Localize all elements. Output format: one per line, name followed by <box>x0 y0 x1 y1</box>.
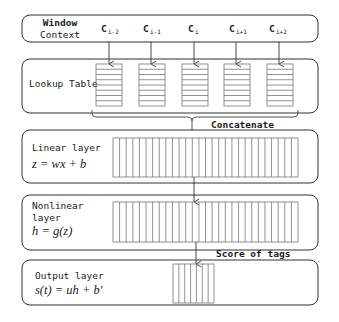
concatenate-label: Concatenate <box>211 119 274 130</box>
token-c-i-minus-2: C i-2 <box>101 23 119 35</box>
svg-text:i: i <box>195 28 199 35</box>
svg-text:C: C <box>229 23 235 34</box>
output-layer-formula: s(t) = uh + b′ <box>35 283 103 297</box>
lookup-table-label: Lookup Table <box>29 78 98 89</box>
nonlinear-layer-label-line1: Nonlinear <box>32 200 84 211</box>
svg-text:i-2: i-2 <box>108 28 119 35</box>
svg-text:C: C <box>101 23 107 34</box>
svg-text:C: C <box>269 23 275 34</box>
lookup-column <box>224 64 250 106</box>
nonlinear-layer-label-line2: layer <box>32 212 61 223</box>
token-to-lookup-arrows <box>109 42 279 64</box>
token-c-i: C i <box>188 23 199 35</box>
window-context-label-line2: Context <box>40 29 80 40</box>
nonlinear-layer-box: Nonlinear layer h = g(z) <box>22 195 318 250</box>
svg-text:i+1: i+1 <box>236 28 247 35</box>
lookup-column <box>267 64 293 106</box>
linear-layer-label: Linear layer <box>32 142 101 153</box>
output-layer-label: Output layer <box>35 270 104 281</box>
svg-text:i-1: i-1 <box>150 28 161 35</box>
lookup-column <box>139 64 165 106</box>
network-diagram: Window Context C i-2 C i-1 C i C i+1 C i… <box>0 0 339 322</box>
lookup-columns <box>96 64 293 106</box>
output-layer-vector <box>173 264 214 303</box>
output-layer-box: Output layer s(t) = uh + b′ <box>22 260 318 305</box>
lookup-table-box: Lookup Table <box>22 59 318 113</box>
svg-text:C: C <box>143 23 149 34</box>
window-context-box: Window Context C i-2 C i-1 C i C i+1 C i… <box>22 15 318 42</box>
score-of-tags-label: Score of tags <box>216 248 290 259</box>
linear-layer-formula: z = wx + b <box>31 157 86 171</box>
lookup-column <box>96 64 122 106</box>
linear-layer-box: Linear layer z = wx + b <box>22 130 318 183</box>
token-c-i-plus-1: C i+1 <box>229 23 247 35</box>
token-c-i-plus-2: C i+2 <box>269 23 287 35</box>
window-context-label-line1: Window <box>43 17 78 28</box>
token-c-i-minus-1: C i-1 <box>143 23 161 35</box>
lookup-column <box>182 64 208 106</box>
nonlinear-layer-vector <box>113 202 298 242</box>
linear-layer-vector <box>113 138 298 177</box>
svg-text:C: C <box>188 23 194 34</box>
nonlinear-layer-formula: h = g(z) <box>32 224 72 238</box>
svg-text:i+2: i+2 <box>276 28 287 35</box>
